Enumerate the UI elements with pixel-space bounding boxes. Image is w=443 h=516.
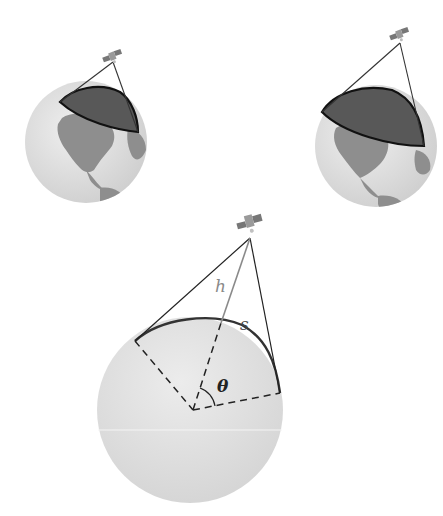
label-h: h [215,276,226,296]
satellite-coverage-diagram: h s θ [0,0,443,516]
label-s: s [240,314,249,334]
satellite-icon [235,212,265,236]
earth-cross-section [97,317,283,503]
cross-section: h s θ [97,212,283,503]
satellite-icon [102,49,125,67]
label-theta: θ [217,376,229,396]
satellite-icon [389,27,412,45]
globe-large-coverage [315,27,437,228]
globe-small-coverage [25,49,147,226]
